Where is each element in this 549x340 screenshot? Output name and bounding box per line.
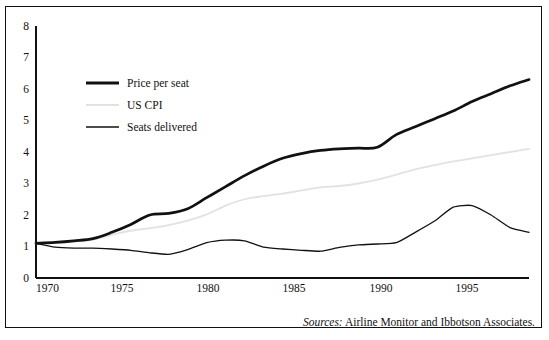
source-text: Airline Monitor and Ibbotson Associates. bbox=[345, 316, 535, 328]
chart-figure: 0 1 2 3 4 5 6 7 8 1970 1975 1980 1985 19… bbox=[0, 0, 549, 340]
y-tick-5: 5 bbox=[23, 114, 29, 126]
x-tick-1995: 1995 bbox=[456, 282, 479, 294]
series-line-us-cpi bbox=[36, 149, 529, 244]
line-chart-plot: 0 1 2 3 4 5 6 7 8 1970 1975 1980 1985 19… bbox=[0, 0, 549, 340]
series-line-seats-delivered bbox=[36, 205, 529, 254]
y-tick-4: 4 bbox=[23, 146, 29, 158]
y-tick-3: 3 bbox=[23, 177, 29, 189]
y-axis-tick-labels: 0 1 2 3 4 5 6 7 8 bbox=[23, 20, 29, 284]
y-tick-6: 6 bbox=[23, 83, 29, 95]
x-tick-1980: 1980 bbox=[197, 282, 220, 294]
x-tick-1990: 1990 bbox=[370, 282, 393, 294]
x-tick-1975: 1975 bbox=[111, 282, 134, 294]
legend-label-price-per-seat: Price per seat bbox=[127, 77, 190, 90]
legend-label-seats-delivered: Seats delivered bbox=[127, 121, 197, 133]
y-tick-8: 8 bbox=[23, 20, 29, 32]
x-axis-tick-labels: 1970 1975 1980 1985 1990 1995 bbox=[36, 282, 479, 294]
y-tick-0: 0 bbox=[23, 272, 29, 284]
y-tick-1: 1 bbox=[23, 240, 29, 252]
legend-label-us-cpi: US CPI bbox=[127, 99, 163, 111]
y-tick-2: 2 bbox=[23, 209, 29, 221]
source-note: Sources: Airline Monitor and Ibbotson As… bbox=[303, 316, 535, 328]
x-tick-1985: 1985 bbox=[283, 282, 306, 294]
source-prefix: Sources: bbox=[303, 316, 343, 328]
y-tick-7: 7 bbox=[23, 51, 29, 63]
chart-legend: Price per seat US CPI Seats delivered bbox=[86, 77, 197, 133]
x-tick-1970: 1970 bbox=[36, 282, 59, 294]
